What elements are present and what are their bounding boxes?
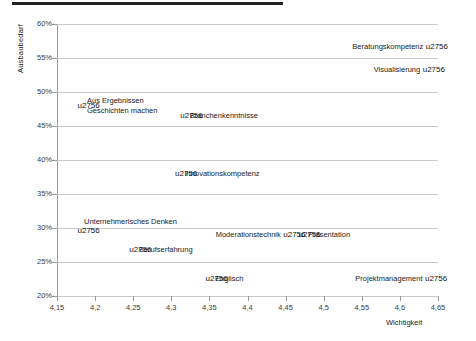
x-tick-label: 4,35: [189, 303, 229, 312]
x-tick-label: 4,15: [37, 303, 77, 312]
x-tick-mark: [286, 296, 287, 301]
x-tick-label: 4,3: [151, 303, 191, 312]
data-point-marker[interactable]: [78, 227, 85, 234]
scatter-chart-figure: Ausbaubedarf Wichtigkeit 20%25%30%35%40%…: [0, 0, 476, 341]
data-point-marker[interactable]: [180, 112, 187, 119]
x-tick-label: 4,4: [228, 303, 268, 312]
x-tick-label: 4,55: [342, 303, 382, 312]
data-point-label: Präsentation: [308, 230, 350, 240]
y-tick-label: 30%: [12, 223, 52, 232]
x-tick-mark: [209, 296, 210, 301]
data-point-marker[interactable]: [129, 246, 136, 253]
x-tick-label: 4,6: [380, 303, 420, 312]
x-tick-mark: [133, 296, 134, 301]
x-tick-mark: [248, 296, 249, 301]
data-point-marker[interactable]: [78, 102, 85, 109]
data-point-marker[interactable]: [283, 231, 290, 238]
data-point-label: Englisch: [215, 274, 243, 284]
data-point-label: Berufserfahrung: [139, 245, 193, 255]
x-tick-mark: [57, 296, 58, 301]
data-point-label: Moderationstechnik: [216, 230, 281, 240]
data-point-label: Beratungskompetenz: [352, 42, 423, 52]
x-tick-label: 4,45: [266, 303, 306, 312]
data-point-label: Unternehmerisches Denken: [84, 217, 177, 227]
y-tick-label: 50%: [12, 87, 52, 96]
y-tick-label: 40%: [12, 155, 52, 164]
y-tick-label: 35%: [12, 189, 52, 198]
data-point-label: Branchenkenntnisse: [190, 111, 258, 121]
data-point-marker[interactable]: [175, 170, 182, 177]
data-point-marker[interactable]: [425, 275, 432, 282]
y-tick-label: 25%: [12, 257, 52, 266]
x-tick-mark: [362, 296, 363, 301]
x-tick-label: 4,2: [75, 303, 115, 312]
y-tick-label: 20%: [12, 291, 52, 300]
x-tick-mark: [324, 296, 325, 301]
y-tick-label: 60%: [12, 19, 52, 28]
x-tick-mark: [400, 296, 401, 301]
x-tick-mark: [438, 296, 439, 301]
x-tick-mark: [171, 296, 172, 301]
x-tick-label: 4,5: [304, 303, 344, 312]
y-tick-label: 55%: [12, 53, 52, 62]
data-point-marker[interactable]: [298, 231, 305, 238]
data-point-marker[interactable]: [423, 66, 430, 73]
data-point-label: Aus Ergebnissen Geschichten machen: [87, 96, 157, 115]
x-tick-label: 4,65: [418, 303, 458, 312]
data-point-label: Visualisierung: [374, 65, 421, 75]
data-point-label: Innovationskompetenz: [185, 169, 260, 179]
header-rule: [12, 2, 283, 5]
data-point-label: Projektmanagement: [355, 274, 422, 284]
x-axis-title: Wichtigkeit: [386, 318, 422, 327]
y-axis-ticks: 20%25%30%35%40%45%50%55%60%: [8, 0, 52, 341]
data-point-marker[interactable]: [426, 43, 433, 50]
y-tick-label: 45%: [12, 121, 52, 130]
x-tick-mark: [95, 296, 96, 301]
x-tick-label: 4,25: [113, 303, 153, 312]
data-point-marker[interactable]: [206, 275, 213, 282]
